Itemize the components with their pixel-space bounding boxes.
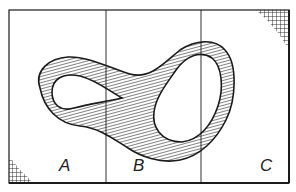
- corner-hatch-top-right: [256, 10, 289, 50]
- hatched-loop: [39, 42, 234, 161]
- region-label-c: C: [260, 156, 273, 175]
- region-label-b: B: [133, 156, 144, 175]
- corner-hatch-bottom-left: [9, 156, 33, 183]
- diagram-canvas: A B C: [0, 0, 296, 192]
- region-label-a: A: [58, 156, 70, 175]
